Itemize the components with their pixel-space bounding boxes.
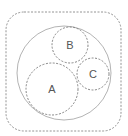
circle-c-label: C: [89, 68, 97, 80]
container-rounded-rect: [6, 12, 121, 131]
circle-b: B: [52, 27, 88, 63]
circle-a-label: A: [48, 83, 56, 95]
circle-a: A: [26, 63, 78, 115]
circle-c: C: [77, 58, 109, 90]
circle-packing-diagram: A B C: [0, 0, 128, 136]
circle-b-label: B: [66, 39, 73, 51]
